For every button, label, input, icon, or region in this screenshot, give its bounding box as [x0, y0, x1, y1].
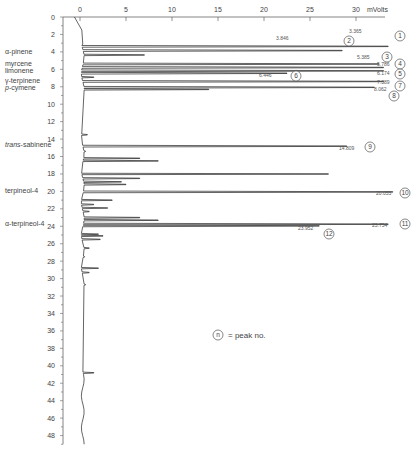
peak-number: 2 — [347, 37, 351, 44]
peak-10-annotation: 20.05510 — [376, 188, 410, 198]
y-tick-label: 12 — [47, 118, 55, 125]
peak-11-annotation: 23.75411 — [372, 219, 410, 229]
y-tick-label: 22 — [47, 205, 55, 212]
y-tick-label: 44 — [47, 397, 55, 404]
y-tick-label: 20 — [47, 188, 55, 195]
y-tick-label: 46 — [47, 415, 55, 422]
y-tick-label: 28 — [47, 258, 55, 265]
x-tick-label: 30 — [352, 6, 360, 13]
y-axis-time: 0246810121416182022242628303234363840424… — [47, 14, 63, 445]
x-tick-label: 15 — [214, 6, 222, 13]
y-tick-label: 8 — [51, 83, 55, 90]
retention-time-label: 23.952 — [298, 225, 314, 231]
x-tick-label: 5 — [124, 6, 128, 13]
peak-annotations: 3.36513.84625.38535.78646.17456.44667.38… — [259, 28, 410, 239]
component-labels: α-pinenemyrcenelimoneneγ-terpinenep-cyme… — [4, 48, 51, 228]
y-tick-label: 16 — [47, 153, 55, 160]
peak-number: 1 — [398, 32, 402, 39]
peak-1-annotation: 3.3651 — [349, 28, 405, 41]
chromatogram-line — [74, 17, 392, 444]
retention-time-label: 14.809 — [339, 145, 355, 151]
x-tick-label: 20 — [260, 6, 268, 13]
peak-number: 5 — [398, 70, 402, 77]
retention-time-label: 3.846 — [276, 35, 289, 41]
peak-12-annotation: 23.95212 — [298, 225, 334, 239]
legend: n = peak no. — [213, 330, 266, 340]
retention-time-label: 6.446 — [259, 72, 272, 78]
peak-9-annotation: 14.8099 — [339, 142, 375, 152]
y-tick-label: 42 — [47, 380, 55, 387]
component-label: trans-sabinene — [5, 141, 51, 148]
x-tick-label: 25 — [306, 6, 314, 13]
chromatogram-chart: 051015202530mVolts 024681012141618202224… — [0, 0, 417, 451]
component-label: α-pinene — [5, 48, 33, 56]
retention-time-label: 7.389 — [377, 79, 390, 85]
y-tick-label: 38 — [47, 345, 55, 352]
component-label: limonene — [5, 67, 34, 74]
y-tick-label: 24 — [47, 223, 55, 230]
peak-number: 6 — [294, 72, 298, 79]
peak-6-annotation: 6.4466 — [259, 71, 301, 81]
y-tick-label: 48 — [47, 432, 55, 439]
legend-symbol: n — [216, 331, 220, 338]
y-tick-label: 2 — [51, 31, 55, 38]
peak-number: 11 — [402, 220, 409, 227]
component-label: α-terpineol-4 — [5, 220, 45, 228]
component-label: terpineol-4 — [5, 187, 38, 195]
component-label: p-cymene — [4, 84, 36, 92]
retention-time-label: 3.365 — [349, 28, 362, 34]
retention-time-label: 5.385 — [357, 54, 370, 60]
y-tick-label: 26 — [47, 240, 55, 247]
x-axis-unit-label: mVolts — [367, 6, 389, 13]
y-tick-label: 34 — [47, 310, 55, 317]
retention-time-label: 5.786 — [377, 61, 390, 67]
peak-number: 4 — [398, 60, 402, 67]
y-tick-label: 4 — [51, 48, 55, 55]
y-tick-label: 32 — [47, 293, 55, 300]
legend-text: = peak no. — [228, 331, 266, 340]
y-tick-label: 0 — [51, 14, 55, 21]
x-tick-label: 0 — [78, 6, 82, 13]
retention-time-label: 6.174 — [377, 70, 390, 76]
peak-2-annotation: 3.8462 — [276, 35, 354, 46]
retention-time-label: 20.055 — [376, 190, 392, 196]
y-tick-label: 10 — [47, 101, 55, 108]
peak-number: 10 — [401, 189, 409, 196]
peak-number: 8 — [392, 92, 396, 99]
y-tick-label: 6 — [51, 66, 55, 73]
x-axis-mvolts: 051015202530mVolts — [63, 6, 389, 21]
peak-number: 9 — [368, 143, 372, 150]
peak-number: 3 — [385, 53, 389, 60]
retention-time-label: 8.062 — [374, 86, 387, 92]
peak-number: 7 — [398, 82, 402, 89]
y-tick-label: 36 — [47, 327, 55, 334]
x-tick-label: 10 — [168, 6, 176, 13]
chromatogram-trace — [74, 17, 392, 444]
y-tick-label: 40 — [47, 362, 55, 369]
peak-5-annotation: 6.1745 — [377, 69, 405, 79]
retention-time-label: 23.754 — [372, 222, 388, 228]
y-tick-label: 18 — [47, 170, 55, 177]
peak-number: 12 — [325, 230, 333, 237]
y-tick-label: 30 — [47, 275, 55, 282]
